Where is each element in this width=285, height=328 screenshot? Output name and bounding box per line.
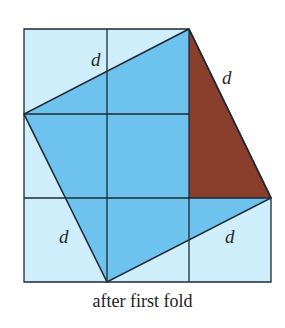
label-d-top-right: d	[222, 67, 232, 88]
label-d-top-left: d	[91, 49, 101, 70]
figure-caption: after first fold	[0, 291, 285, 312]
label-d-bottom-left: d	[59, 226, 69, 247]
label-d-bottom-right: d	[225, 226, 235, 247]
folding-diagram: d d d d	[0, 0, 285, 328]
